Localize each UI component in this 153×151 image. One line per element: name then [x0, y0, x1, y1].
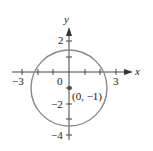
origin-label: 0 — [57, 76, 63, 87]
center-point-label: (0, −1) — [72, 91, 102, 102]
y-tick-label-neg2: −2 — [51, 99, 63, 110]
y-tick-label-neg4: −4 — [51, 130, 63, 141]
y-axis-label: y — [64, 14, 69, 25]
y-axis-arrow-icon — [66, 27, 72, 36]
x-axis-arrow-icon — [124, 69, 133, 75]
x-tick-label-neg3: −3 — [12, 76, 24, 87]
x-tick-label-3: 3 — [113, 76, 119, 87]
x-axis-label: x — [135, 66, 140, 77]
y-tick-label-2: 2 — [58, 35, 64, 46]
